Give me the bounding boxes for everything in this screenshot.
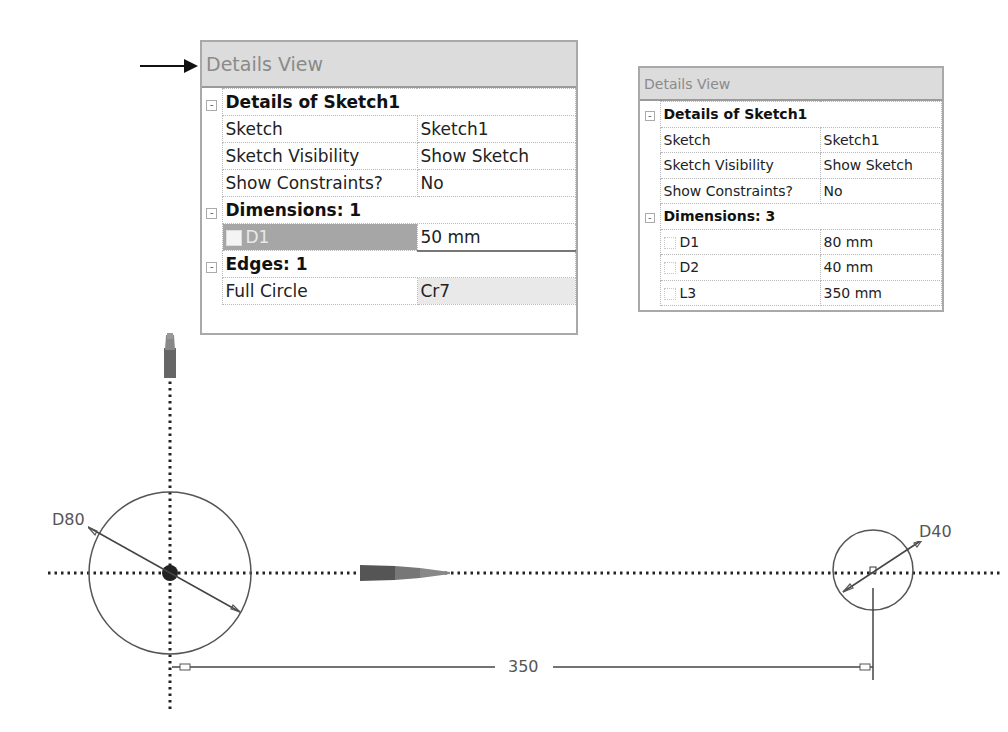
small-circle[interactable]	[833, 530, 913, 610]
collapse-toggle-icon[interactable]: -	[645, 213, 655, 223]
collapse-toggle-icon[interactable]: -	[206, 262, 217, 273]
property-value[interactable]: Show Sketch	[417, 143, 576, 170]
collapse-toggle-icon[interactable]: -	[206, 208, 217, 219]
section-dimensions[interactable]: - Dimensions: 3	[640, 204, 942, 230]
property-row-d2[interactable]: D2 40 mm	[640, 255, 942, 281]
property-value[interactable]: Cr7	[417, 278, 576, 305]
properties-grid: - Details of Sketch1 Sketch Sketch1 Sket…	[202, 88, 576, 305]
dimension-value[interactable]: 350 mm	[820, 280, 942, 306]
origin-point[interactable]	[162, 565, 178, 581]
property-value[interactable]: Sketch1	[820, 127, 942, 153]
property-row-show-constraints[interactable]: Show Constraints? No	[202, 170, 576, 197]
property-value[interactable]: No	[820, 178, 942, 204]
section-title: Details of Sketch1	[222, 89, 576, 116]
parameter-checkbox[interactable]	[664, 237, 676, 249]
dimension-value[interactable]: 80 mm	[820, 229, 942, 255]
property-label: Full Circle	[222, 278, 417, 305]
property-label: D2	[680, 259, 700, 275]
property-label: Show Constraints?	[222, 170, 417, 197]
parameter-checkbox[interactable]	[664, 288, 676, 300]
property-row-show-constraints[interactable]: Show Constraints? No	[640, 178, 942, 204]
y-axis-arrow-icon	[164, 333, 176, 378]
section-title: Details of Sketch1	[660, 102, 942, 128]
section-title: Dimensions: 3	[660, 204, 942, 230]
property-label: Sketch	[660, 127, 820, 153]
collapse-toggle-icon[interactable]: -	[645, 111, 655, 121]
panel-header: Details View	[640, 68, 942, 101]
d80-dimension-line[interactable]	[88, 527, 240, 612]
property-label: Show Constraints?	[660, 178, 820, 204]
property-label: D1	[680, 234, 700, 250]
property-row-sketch-visibility[interactable]: Sketch Visibility Show Sketch	[640, 153, 942, 179]
large-circle[interactable]	[89, 492, 251, 654]
section-title: Edges: 1	[222, 251, 576, 278]
property-label: Sketch Visibility	[222, 143, 417, 170]
section-edges[interactable]: - Edges: 1	[202, 251, 576, 278]
details-view-panel-large: Details View - Details of Sketch1 Sketch…	[200, 40, 578, 335]
dimension-value-input[interactable]: 50 mm	[417, 224, 576, 251]
property-value[interactable]: Show Sketch	[820, 153, 942, 179]
properties-grid: - Details of Sketch1 Sketch Sketch1 Sket…	[640, 101, 942, 306]
section-details-of-sketch1[interactable]: - Details of Sketch1	[202, 89, 576, 116]
d40-dimension-line[interactable]	[843, 540, 922, 592]
property-label: D1	[246, 227, 270, 247]
property-row-full-circle[interactable]: Full Circle Cr7	[202, 278, 576, 305]
dimension-value[interactable]: 40 mm	[820, 255, 942, 281]
parameter-checkbox[interactable]	[664, 262, 676, 274]
property-label: L3	[680, 285, 697, 301]
details-view-panel-small: Details View - Details of Sketch1 Sketch…	[638, 66, 944, 312]
panel-header: Details View	[202, 42, 576, 88]
property-row-sketch[interactable]: Sketch Sketch1	[640, 127, 942, 153]
property-label: Sketch Visibility	[660, 153, 820, 179]
section-dimensions[interactable]: - Dimensions: 1	[202, 197, 576, 224]
l350-label[interactable]: 350	[505, 657, 542, 676]
x-axis-arrow-icon	[360, 565, 450, 581]
property-row-sketch-visibility[interactable]: Sketch Visibility Show Sketch	[202, 143, 576, 170]
section-title: Dimensions: 1	[222, 197, 576, 224]
property-row-d1[interactable]: D1 80 mm	[640, 229, 942, 255]
property-label: Sketch	[222, 116, 417, 143]
section-details-of-sketch1[interactable]: - Details of Sketch1	[640, 102, 942, 128]
callout-arrow-icon	[140, 56, 200, 76]
property-value[interactable]: Sketch1	[417, 116, 576, 143]
collapse-toggle-icon[interactable]: -	[206, 100, 217, 111]
property-row-l3[interactable]: L3 350 mm	[640, 280, 942, 306]
parameter-checkbox[interactable]	[226, 230, 242, 246]
property-row-d1[interactable]: D1 50 mm	[202, 224, 576, 251]
d40-label[interactable]: D40	[916, 522, 955, 541]
small-circle-center[interactable]	[870, 567, 876, 573]
property-value[interactable]: No	[417, 170, 576, 197]
d80-label[interactable]: D80	[49, 510, 88, 529]
property-row-sketch[interactable]: Sketch Sketch1	[202, 116, 576, 143]
